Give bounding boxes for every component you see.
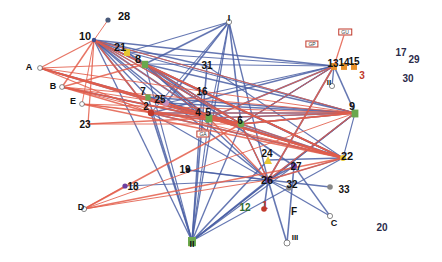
graph-node-marker[interactable] bbox=[163, 100, 169, 106]
boxed-label-GP[interactable]: GP bbox=[305, 41, 318, 48]
graph-edge bbox=[287, 166, 294, 243]
graph-node-marker[interactable] bbox=[80, 102, 85, 107]
graph-diagram: 2810218311672522345691314153172930222427… bbox=[0, 0, 442, 262]
graph-node-marker[interactable] bbox=[284, 240, 290, 246]
graph-node-marker[interactable] bbox=[331, 63, 337, 70]
graph-node-marker[interactable] bbox=[38, 66, 43, 71]
graph-node-marker[interactable] bbox=[291, 163, 297, 169]
graph-node-marker[interactable] bbox=[81, 206, 86, 211]
graph-node-marker[interactable] bbox=[92, 38, 96, 42]
graph-edge bbox=[94, 20, 108, 40]
graph-edge bbox=[268, 113, 355, 180]
graph-node-marker[interactable] bbox=[238, 121, 245, 128]
graph-node-marker[interactable] bbox=[186, 168, 191, 173]
graph-edges-layer bbox=[0, 0, 442, 262]
graph-node-marker[interactable] bbox=[188, 237, 196, 246]
graph-node-marker[interactable] bbox=[286, 185, 292, 191]
graph-edge bbox=[192, 158, 343, 241]
graph-node-marker[interactable] bbox=[226, 19, 231, 24]
graph-node-marker[interactable] bbox=[341, 63, 347, 70]
graph-edge bbox=[334, 32, 345, 66]
graph-edge bbox=[40, 40, 94, 68]
graph-edge bbox=[343, 113, 355, 158]
graph-node-marker[interactable] bbox=[351, 63, 357, 70]
graph-node-marker[interactable] bbox=[261, 206, 267, 212]
boxed-label-GU[interactable]: GU bbox=[338, 29, 352, 36]
graph-node-marker[interactable] bbox=[105, 17, 110, 22]
graph-node-marker[interactable] bbox=[352, 110, 359, 118]
graph-node-marker[interactable] bbox=[124, 49, 130, 56]
graph-node-marker[interactable] bbox=[142, 61, 148, 68]
graph-node-marker[interactable] bbox=[265, 177, 271, 183]
graph-edge bbox=[334, 66, 355, 113]
graph-node-marker[interactable] bbox=[327, 213, 332, 218]
graph-node-marker[interactable] bbox=[145, 94, 150, 100]
graph-node-marker[interactable] bbox=[329, 83, 334, 88]
graph-edge bbox=[294, 166, 330, 216]
graph-node-marker[interactable] bbox=[327, 184, 333, 190]
graph-node-marker[interactable] bbox=[122, 183, 127, 188]
graph-edge bbox=[94, 40, 192, 241]
graph-node-marker[interactable] bbox=[60, 85, 65, 90]
graph-node-marker[interactable] bbox=[340, 155, 346, 161]
graph-node-marker[interactable] bbox=[206, 115, 213, 123]
boxed-label-GA[interactable]: GA bbox=[196, 131, 209, 138]
graph-node-marker[interactable] bbox=[148, 110, 154, 116]
